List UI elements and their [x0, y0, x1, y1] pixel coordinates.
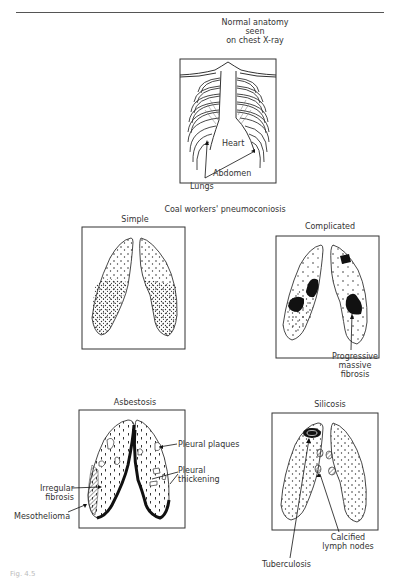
- label-pmf: Progressive massive fibrosis: [320, 352, 390, 379]
- label-abdomen: Abdomen: [213, 169, 251, 178]
- complicated-cwp-diagram: [276, 236, 379, 358]
- label-heart: Heart: [222, 139, 244, 148]
- label-pleural-thickening: Pleural thickening: [178, 466, 220, 484]
- asbestosis-title: Asbestosis: [105, 398, 165, 407]
- complicated-title: Complicated: [295, 222, 365, 231]
- simple-title: Simple: [105, 215, 165, 224]
- cwp-title: Coal workers' pneumoconiosis: [150, 205, 300, 214]
- label-line: fibrosis: [34, 493, 74, 502]
- label-mesothelioma: Mesothelioma: [14, 512, 70, 521]
- asbestosis-diagram: [68, 410, 185, 528]
- label-calcified-lymph-nodes: Calcified lymph nodes: [318, 533, 378, 551]
- figure-caption: Fig. 4.5: [10, 570, 36, 578]
- label-lungs: Lungs: [190, 182, 214, 191]
- label-line: Irregular: [34, 484, 74, 493]
- label-line: Pleural: [178, 466, 220, 475]
- silicosis-title: Silicosis: [300, 400, 360, 409]
- label-line: fibrosis: [320, 370, 390, 379]
- label-irregular-fibrosis: Irregular fibrosis: [34, 484, 74, 502]
- label-line: thickening: [178, 475, 220, 484]
- simple-cwp-diagram: [82, 227, 185, 349]
- normal-xray: [180, 59, 276, 183]
- label-line: lymph nodes: [318, 542, 378, 551]
- label-pleural-plaques: Pleural plaques: [178, 440, 239, 449]
- label-line: Progressive: [320, 352, 390, 361]
- label-line: massive: [320, 361, 390, 370]
- label-tuberculosis: Tuberculosis: [262, 560, 311, 569]
- label-line: Calcified: [318, 533, 378, 542]
